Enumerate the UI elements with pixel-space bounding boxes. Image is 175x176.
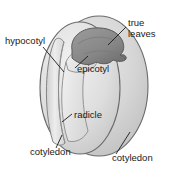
- label-true-leaves-line2: leaves: [128, 28, 155, 39]
- label-true-leaves: trueleaves: [128, 18, 155, 39]
- label-true-leaves-line1: true: [128, 17, 144, 28]
- label-radicle: radicle: [74, 110, 102, 121]
- label-epicotyl: epicotyl: [77, 64, 109, 75]
- label-cotyledon-left: cotyledon: [30, 147, 71, 158]
- label-cotyledon-right: cotyledon: [112, 153, 153, 164]
- figure-canvas: hypocotyl trueleaves epicotyl radicle co…: [0, 0, 175, 176]
- label-hypocotyl: hypocotyl: [5, 36, 45, 47]
